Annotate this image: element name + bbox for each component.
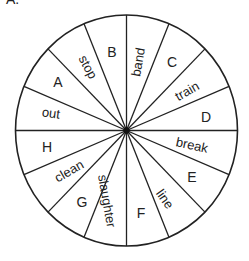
word-wheel-diagram: BstopAoutHcleanGslaughterFlineEbreakDtra… <box>0 0 249 261</box>
segment-letter-label: B <box>107 44 116 60</box>
segment-letter-label: E <box>187 169 196 185</box>
segment-letter-label: H <box>42 139 52 155</box>
wheel-hub <box>123 127 129 133</box>
segment-word-label: out <box>41 104 61 121</box>
segment-letter-label: A <box>53 74 63 90</box>
segment-word-label: break <box>175 134 210 156</box>
segment-word-label: band <box>128 46 148 77</box>
segment-letter-label: G <box>77 194 88 210</box>
segment-letter-label: F <box>137 205 146 221</box>
segment-letter-label: D <box>201 109 211 125</box>
segment-letter-label: C <box>167 54 177 70</box>
